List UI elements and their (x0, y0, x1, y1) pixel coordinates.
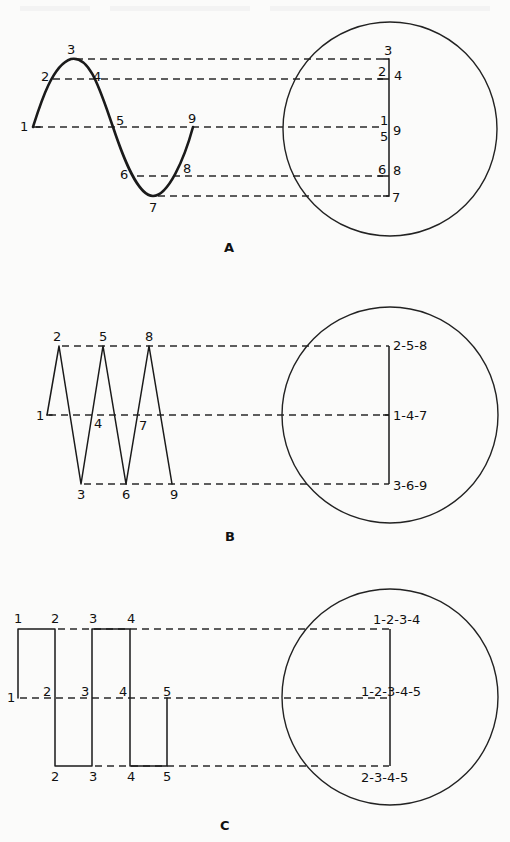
point-label-b-9: 9 (170, 487, 178, 502)
point-label-a-6: 6 (120, 167, 128, 182)
point-label-c-top-4: 4 (127, 611, 135, 626)
point-label-b-6: 6 (122, 487, 130, 502)
point-label-a-9: 9 (188, 111, 196, 126)
screen-label-b-mid: 1-4-7 (393, 408, 427, 423)
point-label-a-5: 5 (116, 113, 124, 128)
point-label-b-7: 7 (139, 418, 147, 433)
panel-b: 1 2 3 4 5 6 7 8 9 2-5-8 1-4-7 3-6-9 B (36, 307, 498, 544)
panel-c: 1 2 3 4 1 2 3 4 5 2 3 4 5 1-2-3-4 1-2-3-… (7, 589, 498, 833)
screen-label-b-top: 2-5-8 (393, 338, 427, 353)
point-label-b-4: 4 (94, 416, 102, 431)
point-label-b-1: 1 (36, 408, 44, 423)
point-label-c-mid-1: 1 (7, 690, 15, 705)
point-label-c-bottom-4: 4 (127, 769, 135, 784)
panel-caption-b: B (225, 529, 235, 544)
point-label-c-mid-3: 3 (81, 684, 89, 699)
point-label-c-mid-5: 5 (163, 684, 171, 699)
screen-label-c-top: 1-2-3-4 (373, 612, 420, 627)
point-label-c-bottom-5: 5 (163, 769, 171, 784)
screen-label-a-mid-left-bottom: 5 (380, 129, 388, 144)
screen-label-a-mid-left-top: 1 (380, 113, 388, 128)
point-label-c-top-1: 1 (14, 611, 22, 626)
screen-label-a-lower-right: 8 (393, 163, 401, 178)
waveform-projection-figure: 1 2 3 4 5 6 7 8 9 3 2 4 1 5 9 6 8 7 A 1 … (0, 0, 510, 842)
point-label-b-8: 8 (145, 329, 153, 344)
point-label-b-5: 5 (99, 329, 107, 344)
screen-label-c-bottom: 2-3-4-5 (361, 770, 408, 785)
panel-caption-a: A (224, 240, 234, 255)
point-label-c-mid-2: 2 (43, 684, 51, 699)
screen-label-a-mid-right: 9 (393, 123, 401, 138)
screen-label-a-top: 3 (384, 43, 392, 58)
panel-caption-c: C (220, 818, 230, 833)
point-label-a-4: 4 (93, 69, 101, 84)
point-label-c-bottom-2: 2 (51, 769, 59, 784)
point-label-c-mid-4: 4 (119, 684, 127, 699)
screen-label-a-lower-left: 6 (378, 162, 386, 177)
panel-a: 1 2 3 4 5 6 7 8 9 3 2 4 1 5 9 6 8 7 A (20, 22, 497, 255)
screen-label-a-upper-left: 2 (378, 64, 386, 79)
point-label-c-top-3: 3 (89, 611, 97, 626)
screen-label-a-bottom: 7 (392, 190, 400, 205)
screen-label-c-mid: 1-2-3-4-5 (361, 684, 421, 699)
point-label-c-bottom-3: 3 (89, 769, 97, 784)
point-label-a-7: 7 (149, 200, 157, 215)
point-label-a-2: 2 (41, 69, 49, 84)
screen-label-b-bottom: 3-6-9 (393, 478, 427, 493)
point-label-a-3: 3 (67, 42, 75, 57)
point-label-b-2: 2 (53, 329, 61, 344)
screen-label-a-upper-right: 4 (394, 68, 402, 83)
page-bleed-through (20, 6, 490, 11)
point-label-a-8: 8 (183, 161, 191, 176)
point-label-c-top-2: 2 (51, 611, 59, 626)
point-label-b-3: 3 (77, 487, 85, 502)
point-label-a-1: 1 (20, 119, 28, 134)
